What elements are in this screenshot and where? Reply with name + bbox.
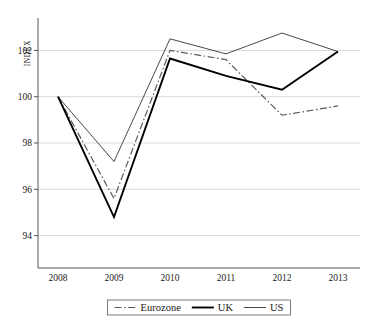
x-tick-label: 2008 [49,273,68,283]
series-line-eurozone [58,50,338,198]
x-tick-labels: 200820092010201120122013 [49,273,348,283]
y-tick-label: 96 [23,185,33,195]
legend-label-us[interactable]: US [270,302,284,313]
legend-label-uk[interactable]: UK [218,302,234,313]
y-tick-label: 94 [23,231,33,241]
y-tick-label: 100 [18,92,33,102]
x-tick-label: 2011 [217,273,236,283]
y-tick-label: 102 [18,46,33,56]
y-tick-label: 98 [23,138,33,148]
line-chart: INDEX 949698100102 200820092010201120122… [0,0,373,321]
series-line-us [58,33,338,161]
chart-legend: EurozoneUKUS [108,300,291,315]
x-tick-label: 2012 [273,273,292,283]
x-tick-label: 2013 [329,273,348,283]
y-tick-labels: 949698100102 [18,46,33,241]
legend-label-eurozone[interactable]: Eurozone [141,302,182,313]
gridlines [34,50,360,235]
series-line-uk [58,52,338,218]
chart-canvas: INDEX 949698100102 200820092010201120122… [0,0,373,321]
x-tick-label: 2010 [161,273,180,283]
x-tick-label: 2009 [105,273,124,283]
